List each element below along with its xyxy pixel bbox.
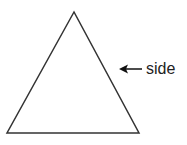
triangle <box>7 12 139 133</box>
side-label: side <box>146 60 175 77</box>
arrow-icon <box>119 65 142 74</box>
triangle-diagram: side <box>0 0 187 145</box>
